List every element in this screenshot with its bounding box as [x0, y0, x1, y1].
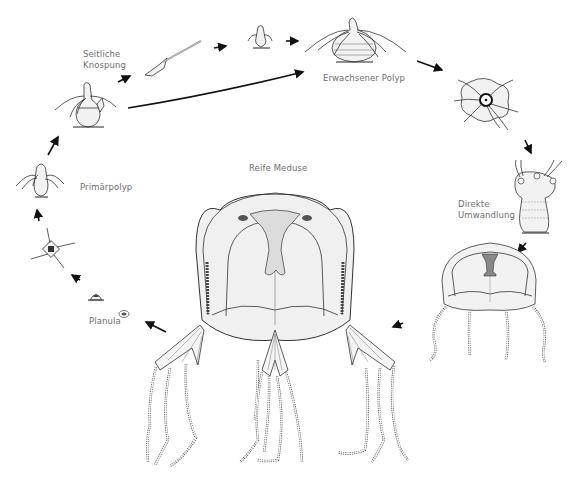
mature-medusa-drawing	[196, 193, 354, 341]
medusa-tentacles	[147, 360, 408, 466]
label-seitliche-knospung-line1: Seitliche	[83, 49, 120, 60]
label-reife-meduse: Reife Meduse	[249, 163, 307, 174]
label-erwachsener-polyp: Erwachsener Polyp	[323, 73, 405, 84]
medusa-pedalia	[155, 325, 395, 376]
detached-bud-drawing	[145, 41, 201, 76]
label-seitliche-knospung-line2: Knospung	[83, 60, 126, 71]
primary-polyp-drawing	[16, 164, 64, 197]
budding-polyp-drawing	[55, 83, 116, 128]
small-polyp-drawing	[248, 26, 272, 49]
label-direkte-umwandlung-line2: Umwandlung	[458, 210, 515, 221]
early-polyp-drawing	[31, 228, 75, 268]
settled-planula-drawing	[88, 295, 104, 301]
metamorphosis-top-view-drawing	[454, 78, 518, 130]
young-medusa-drawing	[430, 243, 545, 362]
label-planula: Planula	[89, 316, 121, 327]
adult-polyp-drawing	[305, 18, 406, 62]
diagram-drawing	[0, 0, 578, 478]
label-direkte-umwandlung-line1: Direkte	[458, 199, 490, 210]
label-primaerpolyp: Primärpolyp	[80, 182, 132, 193]
metamorphosis-side-view-drawing	[515, 160, 562, 233]
life-cycle-diagram: Seitliche Knospung Erwachsener Polyp Pri…	[0, 0, 578, 478]
